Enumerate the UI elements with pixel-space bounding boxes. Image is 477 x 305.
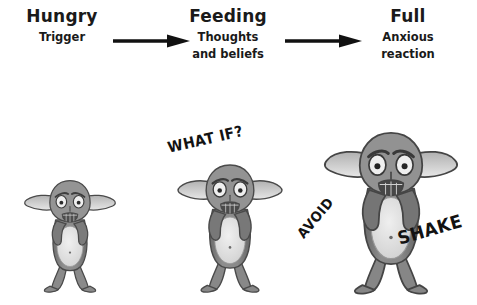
stage-full-subtitle-line-2: reaction <box>352 46 464 63</box>
stage-feeding-subtitle: Thoughts and beliefs <box>172 29 284 62</box>
creature-illustration-small <box>22 168 118 294</box>
stage-full-subtitle-line-1: Anxious <box>352 29 464 46</box>
stage-feeding-title: Feeding <box>172 8 284 26</box>
stage-full-subtitle: Anxious reaction <box>352 29 464 62</box>
stage-hungry-title: Hungry <box>6 8 118 26</box>
stage-feeding-subtitle-line-1: Thoughts <box>172 29 284 46</box>
stage-full: Full Anxious reaction <box>352 8 464 62</box>
stage-feeding-subtitle-line-2: and beliefs <box>172 46 284 63</box>
stage-full-title: Full <box>352 8 464 26</box>
stage-feeding: Feeding Thoughts and beliefs <box>172 8 284 62</box>
stage-hungry-subtitle: Trigger <box>6 29 118 46</box>
creature-illustration-medium <box>168 152 292 294</box>
stage-hungry: Hungry Trigger <box>6 8 118 46</box>
diagram-canvas: Hungry Trigger Feeding Thoughts and beli… <box>0 0 477 305</box>
stage-hungry-subtitle-line-1: Trigger <box>6 29 118 46</box>
